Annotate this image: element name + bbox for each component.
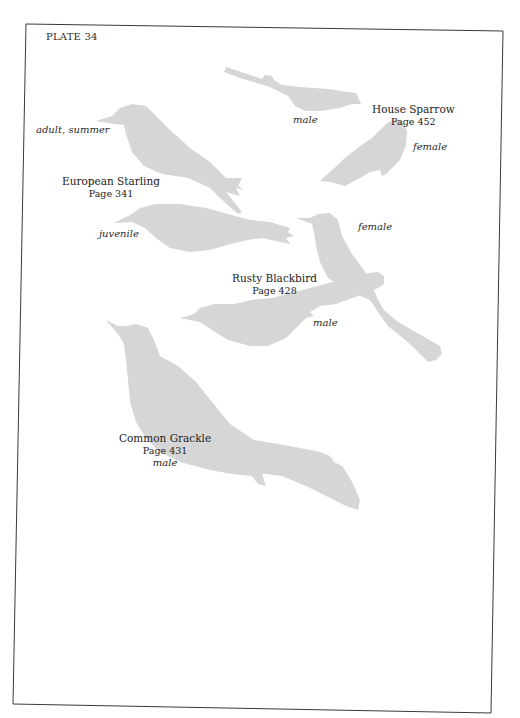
note-rusty-blackbird-male: male [313,318,338,328]
note-house-sparrow-male: male [293,115,318,125]
note-house-sparrow-female: female [413,142,447,152]
note-starling-juvenile: juvenile [99,229,139,239]
species-page: Page 431 [119,445,211,456]
house-sparrow-male-silhouette [224,67,361,111]
european-starling-juvenile-silhouette [114,204,294,252]
species-page: Page 428 [232,285,317,296]
species-label-european-starling: European Starling Page 341 [62,175,160,200]
species-name: Common Grackle [119,432,211,444]
species-label-house-sparrow: House Sparrow Page 452 [372,103,455,128]
species-name: House Sparrow [372,103,455,115]
common-grackle-male-silhouette [106,320,360,510]
species-page: Page 452 [372,116,455,127]
note-starling-adult-summer: adult, summer [36,125,110,135]
note-common-grackle-male: male [119,457,211,468]
species-name: European Starling [62,175,160,187]
species-label-common-grackle: Common Grackle Page 431 male [119,432,211,469]
species-label-rusty-blackbird: Rusty Blackbird Page 428 [232,272,317,297]
species-name: Rusty Blackbird [232,272,317,284]
note-rusty-blackbird-female: female [358,222,392,232]
house-sparrow-female-silhouette [320,120,407,186]
plate-title: PLATE 34 [46,32,98,42]
species-page: Page 341 [62,188,160,199]
